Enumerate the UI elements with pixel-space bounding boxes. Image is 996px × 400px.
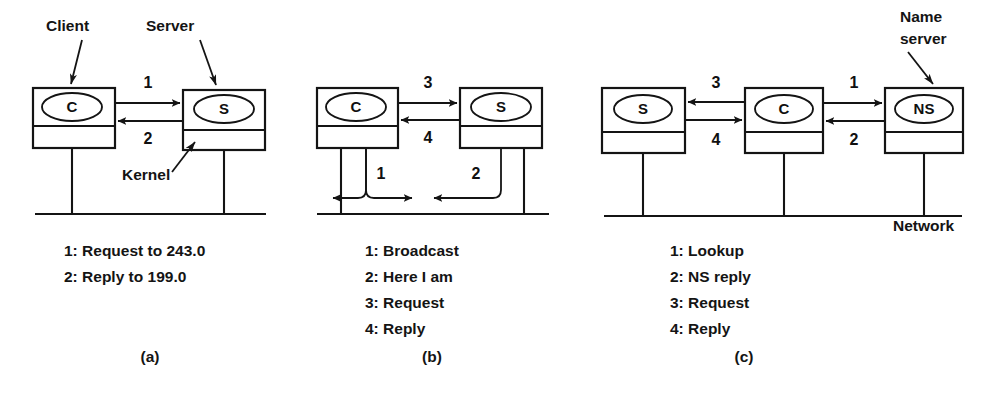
panel-a-legend-line-2: 2: Reply to 199.0 (64, 268, 186, 285)
panel-c-nameserver-annotation-line2: server (900, 30, 947, 47)
panel-c-nameserver-machine: NS (885, 88, 963, 216)
panel-b-arrow-2-number: 2 (472, 165, 481, 182)
panel-c-label: (c) (735, 348, 754, 365)
panel-a-arrow-1-number: 1 (144, 74, 153, 91)
panel-b-legend-line-2: 2: Here I am (365, 268, 453, 285)
panel-b-arrow-3-number: 3 (424, 74, 433, 91)
panel-a-server-machine: S (183, 90, 265, 214)
panel-b-broadcast-arrow-1 (333, 148, 412, 198)
panel-c-arrow-4-number: 4 (712, 131, 721, 148)
panel-c-server-node-label: S (638, 100, 648, 117)
panel-c-arrow-2-number: 2 (850, 131, 859, 148)
panel-b-hereiam-arrow-2 (434, 148, 501, 198)
panel-c-legend-line-4: 4: Reply (670, 320, 731, 337)
panel-b-client-machine: C (317, 88, 398, 214)
panel-b-legend-line-3: 3: Request (365, 294, 444, 311)
panel-c-nameserver-annotation-line1: Name (900, 8, 943, 25)
panel-a-label: (a) (141, 348, 160, 365)
panel-a-client-node-label: C (67, 98, 78, 115)
panel-b-legend-line-4: 4: Reply (365, 320, 426, 337)
panel-a-server-pointer (200, 40, 216, 85)
panel-b-label: (b) (422, 348, 442, 365)
panel-c-arrow-3-number: 3 (712, 74, 721, 91)
panel-c-nameserver-node-label: NS (914, 100, 935, 117)
panel-c-nameserver-pointer (908, 52, 933, 84)
panel-c-legend-line-1: 1: Lookup (670, 242, 744, 259)
panel-b-arrow-1-number: 1 (377, 165, 386, 182)
panel-b-server-node-label: S (496, 98, 506, 115)
panel-b: C S 3 4 1 (317, 74, 549, 365)
panel-a-client-machine: C (33, 88, 115, 214)
diagram-figure: C S 1 2 Client Server (0, 0, 996, 400)
panel-c-server-machine: S (602, 88, 685, 216)
panel-b-client-node-label: C (351, 98, 362, 115)
panel-c-network-annotation: Network (893, 217, 955, 234)
panel-b-legend-line-1: 1: Broadcast (365, 242, 459, 259)
panel-c-client-node-label: C (779, 100, 790, 117)
diagram-canvas: C S 1 2 Client Server (0, 0, 996, 400)
panel-b-arrow-4-number: 4 (424, 129, 433, 146)
panel-a-arrow-2-number: 2 (144, 130, 153, 147)
panel-a-legend-line-1: 1: Request to 243.0 (64, 242, 205, 259)
panel-a-server-annotation: Server (146, 17, 194, 34)
panel-c-legend-line-2: 2: NS reply (670, 268, 751, 285)
panel-a-client-pointer (71, 40, 82, 84)
panel-c-client-machine: C (745, 88, 823, 216)
panel-a-client-annotation: Client (46, 17, 89, 34)
panel-a-server-node-label: S (219, 100, 229, 117)
panel-c-arrow-1-number: 1 (850, 74, 859, 91)
panel-c: S C NS 1 (602, 8, 963, 365)
panel-c-legend-line-3: 3: Request (670, 294, 749, 311)
panel-a: C S 1 2 Client Server (33, 17, 266, 365)
panel-a-kernel-annotation: Kernel (122, 166, 170, 183)
